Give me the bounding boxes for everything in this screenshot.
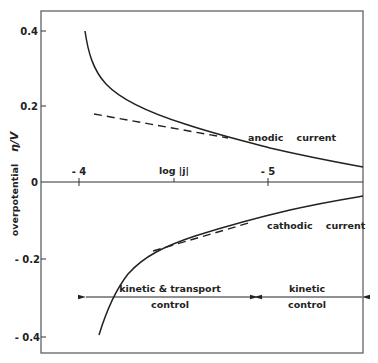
x-axis-label: log |j|: [159, 165, 189, 176]
ytick-0.2: 0.2: [20, 101, 38, 112]
ytick-minus-0.2: - 0.2: [15, 254, 40, 265]
ytick-0: 0: [31, 177, 38, 188]
y-axis-label: overpotential η/V: [8, 130, 21, 236]
cathodic-tafel-dashed: [153, 222, 252, 251]
svg-text:η/V: η/V: [8, 130, 21, 152]
region1-label-line1: kinetic & transport: [119, 283, 221, 294]
region1-label-line2: control: [151, 299, 189, 310]
anodic-tafel-dashed: [94, 114, 228, 138]
cathodic-current-label: cathodic current: [267, 220, 366, 231]
cathodic-curve: [99, 196, 363, 335]
anodic-current-label: anodic current: [248, 132, 337, 143]
svg-text:overpotential: overpotential: [9, 164, 20, 236]
region2-label-line1: kinetic: [289, 283, 325, 294]
anodic-curve: [85, 31, 363, 167]
region2-label-line2: control: [288, 299, 326, 310]
xtick-minus-5: - 5: [261, 166, 276, 177]
y-ticks: [41, 31, 46, 337]
chart: 0.4 0.2 0 - 0.2 - 0.4 - 4 - 5 log |j| ov…: [0, 0, 378, 363]
ytick-minus-0.4: - 0.4: [15, 332, 40, 343]
ytick-0.4: 0.4: [20, 26, 38, 37]
xtick-minus-4: - 4: [72, 166, 87, 177]
